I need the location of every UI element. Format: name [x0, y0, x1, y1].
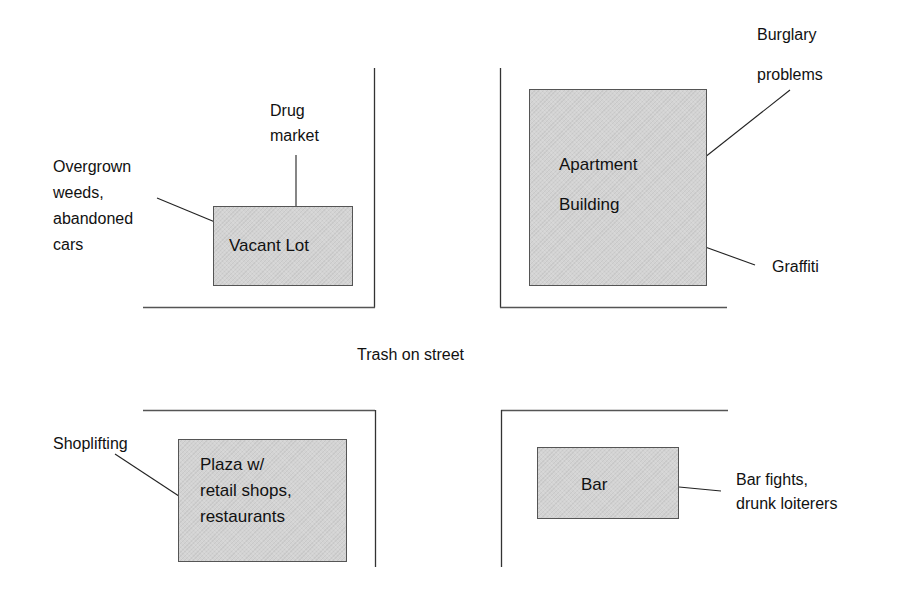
drug-market-line2: market	[270, 126, 319, 145]
overgrown-weeds-line4: cars	[53, 235, 83, 254]
burglary-line1: Burglary	[757, 25, 817, 44]
crime-problem-map-diagram: Vacant Lot Apartment Building Plaza w/ r…	[0, 0, 910, 607]
bar-fights-line2: drunk loiterers	[736, 494, 837, 513]
plaza-label-line3: restaurants	[200, 507, 285, 527]
apartment-building-label-line2: Building	[559, 195, 620, 215]
bar-box	[537, 447, 679, 519]
overgrown-weeds-line3: abandoned	[53, 209, 133, 228]
plaza-label-line2: retail shops,	[200, 481, 292, 501]
vacant-lot-label: Vacant Lot	[229, 236, 309, 256]
shoplifting-label: Shoplifting	[53, 434, 128, 453]
street-lines-and-arrows	[0, 0, 910, 607]
burglary-line2: problems	[757, 65, 823, 84]
drug-market-line1: Drug	[270, 101, 305, 120]
apartment-building-label-line1: Apartment	[559, 155, 637, 175]
overgrown-weeds-line2: weeds,	[53, 183, 104, 202]
bar-fights-line1: Bar fights,	[736, 470, 808, 489]
overgrown-weeds-line1: Overgrown	[53, 157, 131, 176]
graffiti-label: Graffiti	[772, 257, 819, 276]
plaza-label-line1: Plaza w/	[200, 455, 264, 475]
apartment-building-box	[529, 89, 707, 286]
trash-on-street-label: Trash on street	[357, 345, 464, 364]
bar-label: Bar	[581, 475, 607, 495]
